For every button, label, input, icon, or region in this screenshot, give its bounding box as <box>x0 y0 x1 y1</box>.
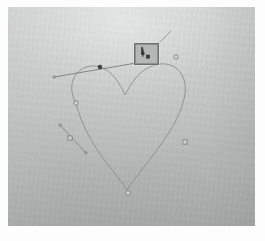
screenshot-root <box>0 0 265 241</box>
anchor-points-group <box>68 55 187 195</box>
pen-tip-shape <box>142 55 143 57</box>
anchor-top-left-lobe[interactable] <box>74 101 78 105</box>
anchor-top-right-lobe[interactable] <box>174 55 178 59</box>
vector-canvas[interactable] <box>8 7 255 226</box>
pen-nib-shape <box>141 47 144 55</box>
add-point-badge-icon <box>146 55 149 58</box>
pen-tool-cursor[interactable] <box>134 43 159 65</box>
tangent-handle-left[interactable] <box>60 125 86 153</box>
anchor-top-cusp[interactable] <box>98 65 102 69</box>
path-layer <box>8 7 255 226</box>
anchor-right-side[interactable] <box>183 140 187 144</box>
cursor-leader-line <box>159 31 171 43</box>
anchor-left-side[interactable] <box>68 136 72 140</box>
anchor-bottom-tip[interactable] <box>126 191 130 195</box>
pen-tool-icon <box>137 45 156 63</box>
heart-path[interactable] <box>72 64 186 190</box>
